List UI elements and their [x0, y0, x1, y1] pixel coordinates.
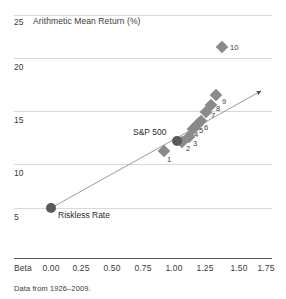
x-axis-rule — [14, 258, 272, 259]
x-axis-tick-labels: 0.00 0.25 0.50 0.75 1.00 1.25 1.50 1.75 — [0, 263, 286, 277]
data-point-label-4: 4 — [194, 131, 198, 139]
x-tick-025: 0.25 — [73, 263, 90, 273]
data-point-sp500 — [172, 136, 182, 146]
data-point-label-5: 5 — [199, 127, 203, 135]
x-tick-175: 1.75 — [258, 263, 275, 273]
security-market-line — [0, 0, 286, 250]
plot-area: 25 20 15 10 5 Arithmetic Mean Return (%)… — [0, 0, 286, 250]
security-market-line-chart: 25 20 15 10 5 Arithmetic Mean Return (%)… — [0, 0, 286, 299]
data-point-label-6: 6 — [204, 124, 208, 132]
x-tick-125: 1.25 — [197, 263, 214, 273]
x-tick-150: 1.50 — [231, 263, 248, 273]
label-riskless-rate: Riskless Rate — [58, 211, 110, 220]
x-tick-050: 0.50 — [104, 263, 121, 273]
x-tick-0: 0.00 — [43, 263, 60, 273]
data-point-riskless-rate — [46, 203, 56, 213]
data-point-label-7: 7 — [211, 112, 215, 120]
x-tick-075: 0.75 — [135, 263, 152, 273]
data-point-label-2: 2 — [186, 145, 190, 153]
label-sp500: S&P 500 — [133, 128, 166, 137]
data-point-label-3: 3 — [193, 140, 197, 148]
footnote: Data from 1926–2009. — [14, 284, 91, 293]
data-point-label-9: 9 — [222, 98, 226, 106]
data-point-label-8: 8 — [216, 105, 220, 113]
data-point-label-1: 1 — [167, 156, 171, 164]
x-tick-100: 1.00 — [166, 263, 183, 273]
data-point-label-10: 10 — [230, 44, 238, 52]
